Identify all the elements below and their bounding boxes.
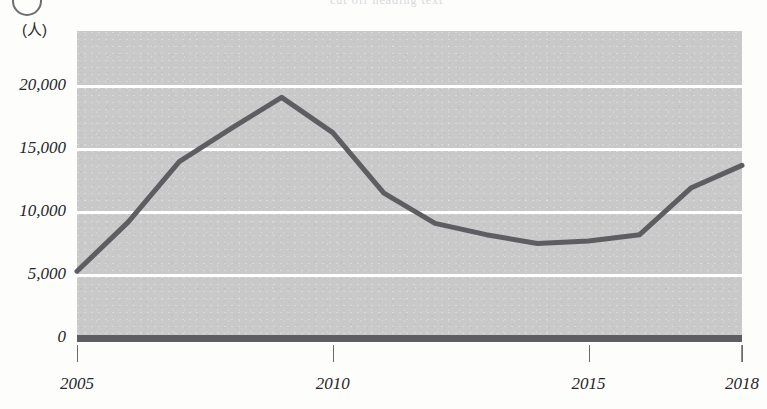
x-axis-tick-label: 2005 [37, 374, 117, 394]
chart-page: cut off heading text (人) 20,00015,00010,… [0, 0, 767, 409]
series-line-chart [77, 31, 742, 338]
x-axis-tick [77, 345, 78, 362]
y-axis-tick-label: 0 [0, 327, 66, 347]
y-axis-tick-label: 20,000 [0, 75, 66, 95]
top-heading-fragment: cut off heading text [330, 0, 443, 8]
x-axis-tick-label: 2015 [549, 374, 629, 394]
y-axis-unit-label: (人) [22, 18, 47, 39]
x-axis-tick-label: 2010 [293, 374, 373, 394]
x-axis-tick [333, 345, 334, 362]
y-axis-tick-label: 5,000 [0, 264, 66, 284]
x-axis-tick-label: 2018 [702, 374, 767, 394]
circled-number-marker [12, 0, 42, 16]
y-axis-tick-label: 15,000 [0, 138, 66, 158]
x-axis-tick [742, 345, 743, 362]
x-axis-frame [77, 345, 742, 362]
y-axis-tick-label: 10,000 [0, 201, 66, 221]
zero-baseline [77, 335, 742, 342]
series-polyline [77, 97, 742, 271]
plot-area [77, 31, 742, 338]
x-axis-tick [589, 345, 590, 362]
